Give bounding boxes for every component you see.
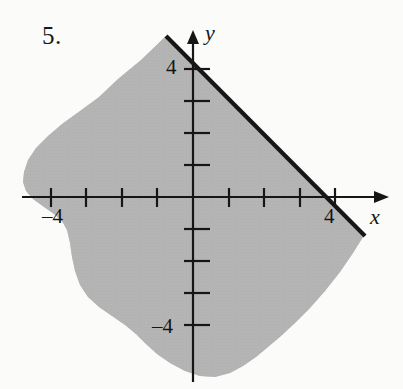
exercise-number: 5. — [42, 22, 62, 50]
x-tick-label-4: 4 — [324, 204, 335, 229]
graph-figure: 5. y x 4 –4 –4 4 — [0, 0, 403, 389]
y-axis-label: y — [205, 20, 215, 46]
plot-canvas — [0, 0, 403, 389]
x-tick-label-minus-4: –4 — [42, 204, 63, 229]
y-tick-label-minus-4: –4 — [152, 314, 173, 339]
x-axis-label: x — [370, 204, 380, 230]
y-tick-label-4: 4 — [166, 55, 177, 80]
